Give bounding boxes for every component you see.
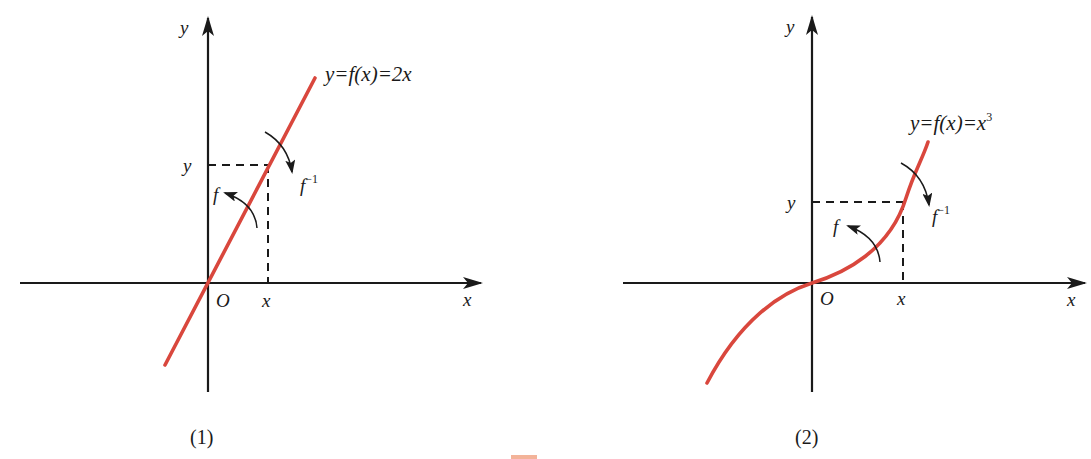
x-value-label: x [896, 288, 906, 309]
origin-label: O [820, 288, 834, 309]
function-inverse-figure: y x O y x y=f(x)=2x f−1 f (1) y x O y x … [0, 0, 1091, 459]
y-axis-label: y [178, 17, 189, 38]
x-value-label: x [261, 290, 271, 311]
x-axis-label: x [1066, 289, 1076, 310]
y-value-label: y [181, 155, 192, 176]
function-curve-cubic [707, 142, 928, 383]
panel-2: y x O y x y=f(x)=x3 f−1 f (2) [623, 16, 1085, 449]
equation-label: y=f(x)=x3 [908, 110, 992, 135]
origin-label: O [216, 290, 230, 311]
x-axis-label: x [462, 289, 472, 310]
panel-caption: (1) [190, 426, 213, 449]
function-curve-linear [165, 78, 315, 365]
orange-edge-mark [511, 455, 537, 459]
y-axis-label: y [784, 16, 795, 37]
forward-label: f [833, 216, 841, 237]
y-value-label: y [785, 192, 796, 213]
panel-1: y x O y x y=f(x)=2x f−1 f (1) [20, 17, 481, 449]
inverse-label: f−1 [932, 203, 950, 227]
inverse-label: f−1 [300, 172, 318, 196]
panel-caption: (2) [795, 426, 818, 449]
equation-label: y=f(x)=2x [323, 62, 412, 86]
forward-label: f [213, 184, 221, 205]
